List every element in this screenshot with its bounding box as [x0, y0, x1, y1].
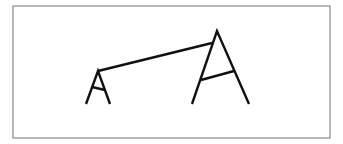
a-frame-diagram — [0, 0, 343, 144]
figure-border — [13, 6, 330, 138]
